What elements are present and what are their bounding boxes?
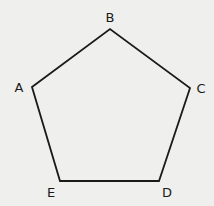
pentagon-figure — [0, 0, 214, 206]
vertex-label-c: C — [196, 82, 205, 95]
vertex-label-b: B — [106, 11, 115, 24]
pentagon-shape — [32, 29, 190, 181]
pentagon-diagram: A B C D E — [0, 0, 214, 206]
vertex-label-e: E — [47, 186, 55, 199]
vertex-label-d: D — [162, 186, 172, 199]
vertex-label-a: A — [15, 81, 24, 94]
